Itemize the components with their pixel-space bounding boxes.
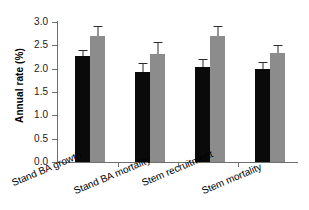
bar-gray-2 [210,36,225,162]
error-bar-stem [277,45,278,53]
error-bar-cap [78,50,87,51]
bar-black-1 [135,72,150,162]
error-bar-black-1 [135,63,150,83]
y-tick-label: 1.5 [14,86,48,97]
y-tick-mark [52,92,57,93]
bar-black-0 [75,56,90,162]
y-tick-label: 2.0 [14,63,48,74]
y-tick-mark [52,45,57,46]
x-tick-mark [238,163,239,167]
error-bar-cap [138,63,147,64]
y-tick-mark [52,139,57,140]
plot-area [58,22,298,162]
y-tick-mark [52,115,57,116]
error-bar-gray-1 [150,42,165,66]
y-tick-label: 0.5 [14,133,48,144]
error-bar-black-0 [75,50,90,60]
error-bar-cap [198,59,207,60]
bar-gray-0 [90,36,105,162]
error-bar-cap [273,45,282,46]
error-bar-stem [157,42,158,54]
bar-chart-figure: Annual rate (%) 0.00.51.01.52.02.53.0 St… [0,0,309,210]
error-bar-gray-2 [210,26,225,47]
bar-black-3 [255,69,270,162]
y-tick-label: 2.5 [14,39,48,50]
error-bar-cap [153,42,162,43]
error-bar-stem [262,62,263,69]
y-tick-label: 3.0 [14,16,48,27]
bar-black-2 [195,67,210,162]
y-tick-label: 1.0 [14,109,48,120]
error-bar-cap [93,26,102,27]
error-bar-gray-3 [270,45,285,61]
error-bar-stem [202,59,203,67]
error-bar-stem [142,63,143,73]
error-bar-gray-0 [90,26,105,46]
bar-gray-3 [270,53,285,162]
error-bar-black-3 [255,62,270,76]
error-bar-cap [213,26,222,27]
error-bar-stem [97,26,98,36]
error-bar-stem [217,26,218,36]
bar-gray-1 [150,54,165,162]
y-tick-mark [52,69,57,70]
category-label-0: Stand BA growth [10,149,83,188]
error-bar-black-2 [195,59,210,76]
error-bar-cap [258,62,267,63]
y-tick-mark [52,22,57,23]
category-label-3: Stem mortality [200,161,263,196]
